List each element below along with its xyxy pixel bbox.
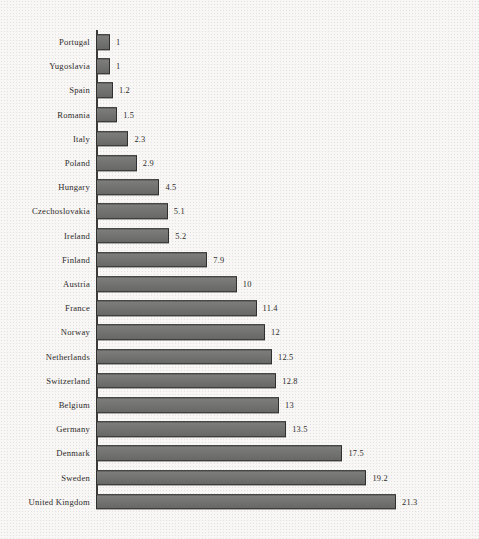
bar-value-label: 1.5 bbox=[123, 110, 134, 119]
category-label: Belgium bbox=[59, 400, 90, 410]
bar-row: Czechoslovakia5.1 bbox=[0, 199, 479, 223]
bar bbox=[96, 470, 366, 486]
bar-row: Portugal1 bbox=[0, 30, 479, 54]
bar-row: Switzerland12.8 bbox=[0, 369, 479, 393]
bar bbox=[96, 131, 128, 147]
bar-value-label: 21.3 bbox=[402, 497, 417, 506]
bar-value-label: 7.9 bbox=[213, 255, 224, 264]
bar-row: Norway12 bbox=[0, 320, 479, 344]
bar-value-label: 13.5 bbox=[292, 425, 307, 434]
bar bbox=[96, 397, 279, 413]
bar-value-label: 5.1 bbox=[174, 207, 185, 216]
bar-value-label: 4.5 bbox=[165, 183, 176, 192]
bar-row: Belgium13 bbox=[0, 393, 479, 417]
bar-value-label: 12.5 bbox=[278, 352, 293, 361]
bar-value-label: 2.9 bbox=[143, 159, 154, 168]
bar bbox=[96, 301, 257, 317]
bar-value-label: 1 bbox=[116, 62, 120, 71]
category-label: Romania bbox=[57, 110, 90, 120]
bar bbox=[96, 83, 113, 99]
category-label: Yugoslavia bbox=[49, 61, 90, 71]
bar-row: Austria10 bbox=[0, 272, 479, 296]
bar bbox=[96, 107, 117, 123]
category-label: Portugal bbox=[59, 37, 90, 47]
bar-row: France11.4 bbox=[0, 296, 479, 320]
bar-row: Spain1.2 bbox=[0, 78, 479, 102]
bar-row: Finland7.9 bbox=[0, 248, 479, 272]
bar-value-label: 1.2 bbox=[119, 86, 130, 95]
bar-value-label: 19.2 bbox=[372, 473, 387, 482]
bar-value-label: 11.4 bbox=[263, 304, 278, 313]
bar-row: United Kingdom21.3 bbox=[0, 490, 479, 514]
horizontal-bar-chart: Portugal1Yugoslavia1Spain1.2Romania1.5It… bbox=[0, 0, 479, 539]
bar-row: Ireland5.2 bbox=[0, 224, 479, 248]
category-label: Czechoslovakia bbox=[32, 206, 90, 216]
category-label: Austria bbox=[63, 279, 90, 289]
bar-value-label: 1 bbox=[116, 38, 120, 47]
category-label: Spain bbox=[69, 85, 90, 95]
bar-value-label: 12.8 bbox=[282, 376, 297, 385]
bar bbox=[96, 422, 286, 438]
category-label: Ireland bbox=[64, 231, 90, 241]
bar bbox=[96, 252, 207, 268]
category-label: France bbox=[65, 303, 90, 313]
bar-value-label: 12 bbox=[271, 328, 280, 337]
plot-area: Portugal1Yugoslavia1Spain1.2Romania1.5It… bbox=[0, 0, 479, 539]
bar-row: Romania1.5 bbox=[0, 103, 479, 127]
bar-row: Yugoslavia1 bbox=[0, 54, 479, 78]
bar bbox=[96, 373, 276, 389]
bar-row: Poland2.9 bbox=[0, 151, 479, 175]
bar-row: Netherlands12.5 bbox=[0, 345, 479, 369]
bar bbox=[96, 228, 169, 244]
bar-value-label: 17.5 bbox=[348, 449, 363, 458]
bar-row: Denmark17.5 bbox=[0, 441, 479, 465]
category-label: Norway bbox=[61, 327, 90, 337]
category-label: Finland bbox=[62, 255, 90, 265]
bar-value-label: 13 bbox=[285, 401, 294, 410]
bar-row: Sweden19.2 bbox=[0, 466, 479, 490]
bar bbox=[96, 276, 237, 292]
category-label: Netherlands bbox=[46, 352, 90, 362]
category-label: Denmark bbox=[56, 448, 90, 458]
category-label: Hungary bbox=[58, 182, 90, 192]
bar bbox=[96, 494, 396, 510]
bar-value-label: 5.2 bbox=[175, 231, 186, 240]
bar bbox=[96, 204, 168, 220]
bar bbox=[96, 155, 137, 171]
bar bbox=[96, 446, 342, 462]
bar bbox=[96, 325, 265, 341]
bar bbox=[96, 180, 159, 196]
bar bbox=[96, 34, 110, 50]
category-label: Switzerland bbox=[46, 376, 90, 386]
bar-value-label: 10 bbox=[243, 280, 252, 289]
bar bbox=[96, 59, 110, 75]
bar-row: Germany13.5 bbox=[0, 417, 479, 441]
bar-value-label: 2.3 bbox=[134, 134, 145, 143]
bar-row: Hungary4.5 bbox=[0, 175, 479, 199]
bar bbox=[96, 349, 272, 365]
category-label: Poland bbox=[65, 158, 90, 168]
category-label: United Kingdom bbox=[28, 497, 90, 507]
bar-row: Italy2.3 bbox=[0, 127, 479, 151]
category-label: Germany bbox=[56, 424, 90, 434]
category-label: Italy bbox=[73, 134, 90, 144]
category-label: Sweden bbox=[61, 473, 90, 483]
